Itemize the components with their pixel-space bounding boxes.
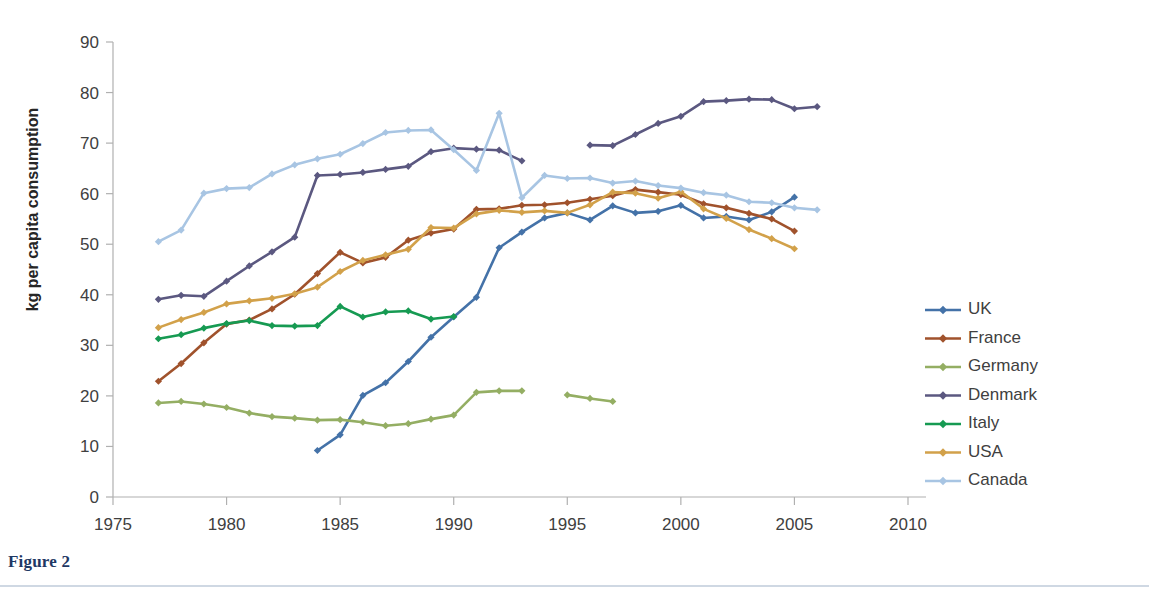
legend-label: France	[968, 328, 1021, 347]
data-point	[155, 296, 162, 303]
data-point	[382, 308, 389, 315]
series-line-france	[158, 190, 794, 382]
data-point	[632, 209, 639, 216]
data-point	[564, 391, 571, 398]
x-tick-label: 1975	[94, 515, 132, 534]
data-point	[745, 198, 752, 205]
data-point	[200, 325, 207, 332]
data-point	[291, 415, 298, 422]
data-point	[200, 400, 207, 407]
y-tick-label: 30	[80, 336, 99, 355]
series-line-denmark	[590, 99, 817, 146]
data-point	[700, 189, 707, 196]
data-point	[382, 422, 389, 429]
data-point	[791, 204, 798, 211]
data-point	[586, 142, 593, 149]
data-point	[496, 110, 503, 117]
legend-swatch-marker	[939, 420, 947, 428]
data-point	[586, 174, 593, 181]
legend-item-usa[interactable]: USA	[925, 442, 1004, 461]
data-point	[564, 175, 571, 182]
series-germany	[155, 387, 616, 429]
data-point	[246, 409, 253, 416]
series-line-denmark	[158, 148, 521, 299]
y-axis-title: kg per capita consumption	[24, 108, 41, 312]
legend-swatch-marker	[939, 363, 947, 371]
data-point	[223, 300, 230, 307]
data-point	[586, 395, 593, 402]
y-axis-ticks: 0102030405060708090	[80, 33, 113, 507]
legend-label: USA	[968, 442, 1004, 461]
data-point	[496, 387, 503, 394]
data-point	[155, 399, 162, 406]
data-point	[768, 199, 775, 206]
data-point	[814, 103, 821, 110]
x-tick-label: 1995	[548, 515, 586, 534]
data-point	[564, 209, 571, 216]
data-point	[268, 295, 275, 302]
data-point	[314, 417, 321, 424]
data-point	[155, 335, 162, 342]
data-point	[427, 315, 434, 322]
data-point	[723, 192, 730, 199]
x-tick-label: 2010	[889, 515, 927, 534]
legend-label: Canada	[968, 470, 1028, 489]
legend-item-france[interactable]: France	[925, 328, 1021, 347]
data-point	[723, 97, 730, 104]
data-point	[359, 169, 366, 176]
data-point	[609, 179, 616, 186]
data-point	[405, 127, 412, 134]
legend-swatch-marker	[939, 448, 947, 456]
legend-label: Italy	[968, 413, 1000, 432]
line-chart: 0102030405060708090197519801985199019952…	[0, 0, 1149, 545]
legend-item-canada[interactable]: Canada	[925, 470, 1028, 489]
data-point	[791, 105, 798, 112]
data-point	[268, 322, 275, 329]
data-point	[223, 404, 230, 411]
data-point	[723, 204, 730, 211]
legend-item-germany[interactable]: Germany	[925, 356, 1038, 375]
legend-swatch-marker	[939, 306, 947, 314]
data-point	[655, 195, 662, 202]
data-point	[405, 420, 412, 427]
x-tick-label: 1985	[321, 515, 359, 534]
data-point	[745, 210, 752, 217]
data-point	[291, 323, 298, 330]
chart-legend: UKFranceGermanyDenmarkItalyUSACanada	[925, 299, 1038, 489]
data-point	[178, 398, 185, 405]
data-point	[541, 207, 548, 214]
data-point	[178, 292, 185, 299]
legend-label: UK	[968, 299, 992, 318]
data-point	[655, 208, 662, 215]
x-tick-label: 1990	[435, 515, 473, 534]
data-point	[518, 209, 525, 216]
series-canada	[155, 110, 821, 246]
series-italy	[155, 303, 457, 343]
chart-axes	[113, 42, 926, 497]
y-tick-label: 70	[80, 134, 99, 153]
legend-item-uk[interactable]: UK	[925, 299, 992, 318]
data-point	[337, 171, 344, 178]
data-point	[473, 146, 480, 153]
data-point	[223, 185, 230, 192]
bottom-divider	[0, 585, 1149, 587]
series-line-uk	[317, 197, 794, 450]
data-point	[155, 324, 162, 331]
y-tick-label: 0	[90, 488, 99, 507]
data-point	[518, 202, 525, 209]
legend-swatch-marker	[939, 334, 947, 342]
data-point	[609, 398, 616, 405]
figure-caption: Figure 2	[8, 552, 70, 572]
data-point	[337, 416, 344, 423]
data-point	[359, 419, 366, 426]
legend-item-italy[interactable]: Italy	[925, 413, 1000, 432]
x-axis-ticks: 19751980198519901995200020052010	[94, 497, 927, 534]
data-point	[268, 413, 275, 420]
x-tick-label: 2005	[776, 515, 814, 534]
data-point	[768, 96, 775, 103]
y-tick-label: 20	[80, 387, 99, 406]
data-point	[518, 387, 525, 394]
data-point	[427, 416, 434, 423]
legend-item-denmark[interactable]: Denmark	[925, 385, 1037, 404]
series-uk	[314, 194, 798, 454]
